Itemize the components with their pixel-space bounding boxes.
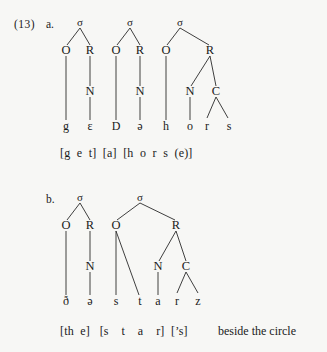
nucleus-node-b1: N [85,260,94,273]
onset-node-a2: O [111,44,120,57]
coda-node-a3: C [212,85,220,98]
coda-node-b2: C [182,260,190,273]
onset-node-b2: O [111,219,120,232]
segment-a-6: o [187,120,193,132]
nucleus-node-a1: N [85,85,94,98]
segment-a-8: s [227,120,232,132]
segment-a-4: ə [137,120,142,132]
segment-a-5: h [163,120,169,132]
sigma-node-a3: σ [177,17,183,28]
sigma-node-b1: σ [77,192,83,203]
example-number: (13) [14,19,35,31]
nucleus-node-a2: N [135,85,144,98]
sigma-node-a2: σ [127,17,133,28]
nucleus-node-b2: N [153,260,162,273]
segment-a-2: ɛ [87,120,92,132]
segment-b-1: ð [63,295,69,307]
sigma-node-b2: σ [137,192,143,203]
segment-b-3: s [114,295,119,307]
gloss-line-a: [g e t] [a] [h o r s (e)] [60,147,193,159]
segment-a-3: D [112,120,121,132]
item-label-a: a. [46,19,54,31]
onset-node-a3: O [161,44,170,57]
diagram-canvas: (13) a. σ σ σ O R O R O R N N N C g ɛ D … [0,0,327,352]
segment-b-5: a [155,295,160,307]
sigma-node-a1: σ [77,17,83,28]
rhyme-node-a2: R [136,44,144,57]
rhyme-node-a1: R [86,44,94,57]
nucleus-node-a3: N [185,85,194,98]
segment-b-7: z [195,295,200,307]
item-label-b: b. [46,194,55,206]
segment-b-2: ə [87,295,92,307]
rhyme-node-b1: R [86,219,94,232]
gloss-line-b: [th e] [s t a r] [’s] [60,325,188,337]
rhyme-node-b2: R [172,219,180,232]
segment-b-4: t [138,295,141,307]
segment-b-6: r [175,295,179,307]
rhyme-node-a3: R [206,44,214,57]
segment-a-7: r [205,120,209,132]
trailing-text-b: beside the circle [218,325,296,337]
onset-node-b1: O [61,219,70,232]
onset-node-a1: O [61,44,70,57]
segment-a-1: g [63,120,69,132]
